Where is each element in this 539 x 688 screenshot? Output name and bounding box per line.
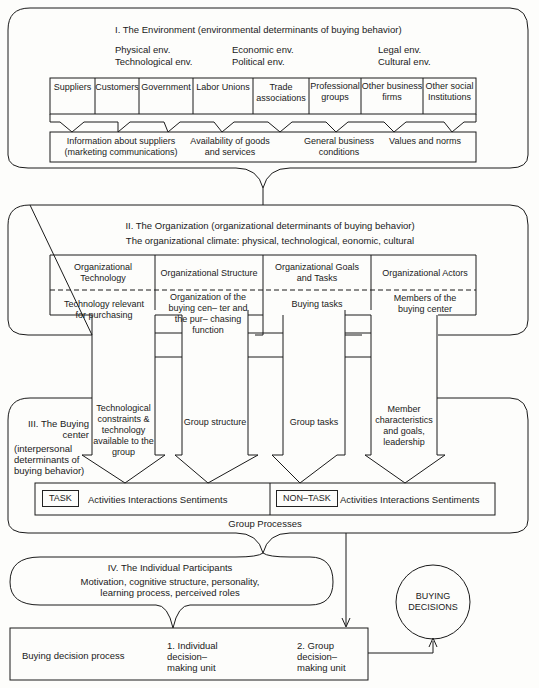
influence-supplier-info: Information about suppliers (marketing c… [56,134,186,160]
org-actors-header: Organizational Actors [376,260,474,286]
group-processes-label: Group Processes [200,518,330,529]
nontask-label: NON–TASK [276,490,338,507]
environment-title: I. The Environment (environmental determ… [115,24,402,35]
institution-customers: Customers [95,80,139,94]
individual-title: IV. The Individual Participants [60,562,280,573]
org-structure-detail: Organization of the buying cen– ter and … [164,291,252,337]
institution-labor-unions: Labor Unions [193,80,253,94]
institution-trade-associations: Trade associations [253,80,309,106]
org-goals-detail: Buying tasks [268,292,366,316]
env-economic: Economic env. [232,44,294,55]
institution-suppliers: Suppliers [50,80,95,94]
arrow-technological-constraints: Technological constraints & technology a… [92,402,155,458]
org-goals-header: Organizational Goals and Tasks [268,260,366,286]
nontask-processes: Activities Interactions Sentiments [340,494,479,505]
influence-business-conditions: General business conditions [294,134,384,160]
influence-values-norms: Values and norms [380,134,470,148]
arrow-member-characteristics: Member characteristics and goals, leader… [371,400,437,452]
env-technological: Technological env. [115,56,192,67]
influence-availability: Availability of goods and services [188,134,272,160]
arrow-group-tasks: Group tasks [283,402,345,442]
org-technology-detail: Technology relevant for purchasing [62,292,146,328]
buying-center-subtitle: (interpersonal determinants of buying be… [14,443,86,476]
individual-text: Motivation, cognitive structure, persona… [70,576,270,598]
institution-professional-groups: Professional groups [309,80,361,104]
buying-decisions-node: BUYING DECISIONS [403,585,463,619]
organization-title: II. The Organization (organizational det… [20,220,520,231]
env-cultural: Cultural env. [378,56,431,67]
buying-center-title: III. The Buying center [17,418,89,440]
arrow-group-structure: Group structure [182,402,248,442]
org-structure-header: Organizational Structure [160,260,258,286]
group-unit: 2. Group decision– making unit [297,640,357,673]
individual-unit: 1. Individual decision– making unit [167,640,237,673]
institution-other-social: Other social Institutions [423,80,476,104]
institution-other-business-firms: Other business firms [361,80,423,104]
org-actors-detail: Members of the buying center [380,292,470,316]
env-physical: Physical env. [115,44,170,55]
task-processes: Activities Interactions Sentiments [88,494,227,505]
decision-process-label: Buying decision process [22,650,124,661]
org-technology-header: Organizational Technology [54,260,152,286]
task-label: TASK [42,490,79,507]
institution-government: Government [139,80,193,94]
organization-climate: The organizational climate: physical, te… [20,235,520,246]
env-political: Political env. [232,56,285,67]
env-legal: Legal env. [378,44,421,55]
